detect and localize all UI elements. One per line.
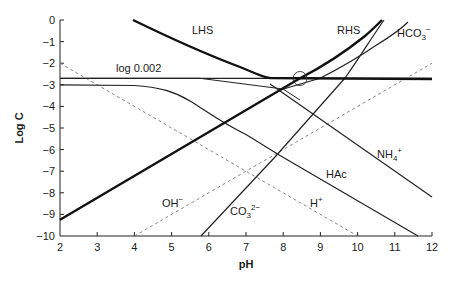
hac-label: HAc <box>326 168 347 180</box>
nh4-line <box>270 84 432 197</box>
y-tick-label: −5 <box>42 122 55 134</box>
x-tick-label: 5 <box>169 241 175 253</box>
y-tick-label: −3 <box>42 79 55 91</box>
x-tick-label: 9 <box>317 241 323 253</box>
nh4-upper-segment <box>60 78 300 100</box>
x-tick-label: 8 <box>280 241 286 253</box>
oh-label: OH− <box>162 195 184 209</box>
y-tick-labels: 0 −1 −2 −3 −4 −5 −6 −7 −8 −9 −10 <box>36 14 55 242</box>
y-tick-label: −6 <box>42 144 55 156</box>
hco3-label: HCO3− <box>397 25 431 42</box>
y-tick-label: 0 <box>49 14 55 26</box>
y-tick-label: −8 <box>42 187 55 199</box>
co3-label: CO32− <box>230 203 260 220</box>
y-tick-label: −10 <box>36 230 55 242</box>
x-ticks <box>97 232 432 236</box>
lhs-label: LHS <box>192 24 213 36</box>
x-tick-label: 6 <box>206 241 212 253</box>
y-tick-label: −9 <box>42 208 55 220</box>
x-tick-label: 12 <box>426 241 438 253</box>
co3-line <box>201 20 384 236</box>
x-tick-label: 11 <box>389 241 400 253</box>
y-tick-label: −1 <box>42 36 55 48</box>
y-tick-label: −4 <box>42 100 55 112</box>
axes <box>60 20 432 236</box>
x-tick-label: 2 <box>57 241 63 253</box>
nh4-label: NH4+ <box>377 146 402 163</box>
y-ticks <box>60 20 64 214</box>
x-tick-label: 4 <box>131 241 137 253</box>
x-tick-labels: 2 3 4 5 6 7 8 9 10 11 12 <box>57 241 438 253</box>
x-axis-label: pH <box>239 258 254 270</box>
y-axis-label: Log C <box>13 112 25 143</box>
lhs-curve <box>133 20 432 79</box>
x-tick-label: 3 <box>94 241 100 253</box>
rhs-label: RHS <box>337 24 360 36</box>
y-tick-label: −2 <box>42 57 55 69</box>
h-line <box>60 63 358 236</box>
h-label: H+ <box>310 195 323 209</box>
log-c-ph-chart: 0 −1 −2 −3 −4 −5 −6 −7 −8 −9 −10 2 3 4 5… <box>0 0 457 282</box>
log-0002-label: log 0.002 <box>116 62 161 74</box>
y-tick-label: −7 <box>42 165 55 177</box>
x-tick-label: 10 <box>351 241 363 253</box>
x-tick-label: 7 <box>243 241 249 253</box>
